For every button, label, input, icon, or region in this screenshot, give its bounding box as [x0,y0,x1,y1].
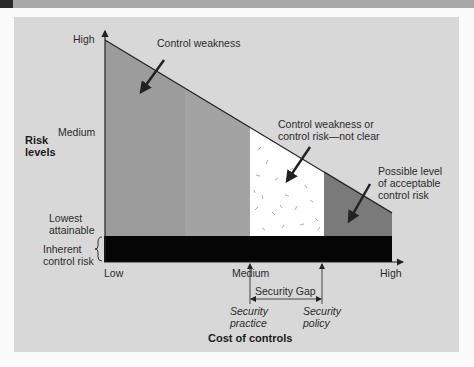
security-policy-line2: policy [303,317,330,329]
inherent-risk-brace [95,237,102,261]
inherent-risk-label-line1: Inherent [43,243,82,255]
y-axis-title-line2: levels [25,146,56,158]
x-tick-medium: Medium [232,267,269,279]
control-weakness-region [105,40,185,237]
y-tick-medium: Medium [58,126,95,138]
y-tick-high: High [73,33,95,45]
unclear-label-line2: control risk—not clear [278,130,380,142]
security-gap-label: Security Gap [255,285,316,297]
control-weakness-label: Control weakness [157,37,240,49]
y-tick-lowest-line1: Lowest [49,212,82,224]
unclear-region [250,127,324,237]
y-tick-lowest-line2: attainable [49,224,95,236]
x-axis-title: Cost of controls [208,332,292,344]
acceptable-label-line3: control risk [378,189,429,201]
control-weakness-region-right [185,88,250,237]
y-axis-title-line1: Risk [25,134,48,146]
inherent-control-risk-bar [104,236,392,262]
acceptable-label-line1: Possible level [378,165,442,177]
acceptable-label-line2: of acceptable [378,177,440,189]
inherent-risk-label-line2: control risk [43,255,94,267]
security-practice-line2: practice [230,317,267,329]
unclear-label-line1: Control weakness or [278,118,374,130]
x-tick-low: Low [104,267,123,279]
security-practice-line1: Security [230,305,268,317]
x-tick-high: High [380,267,402,279]
security-policy-line1: Security [303,305,341,317]
